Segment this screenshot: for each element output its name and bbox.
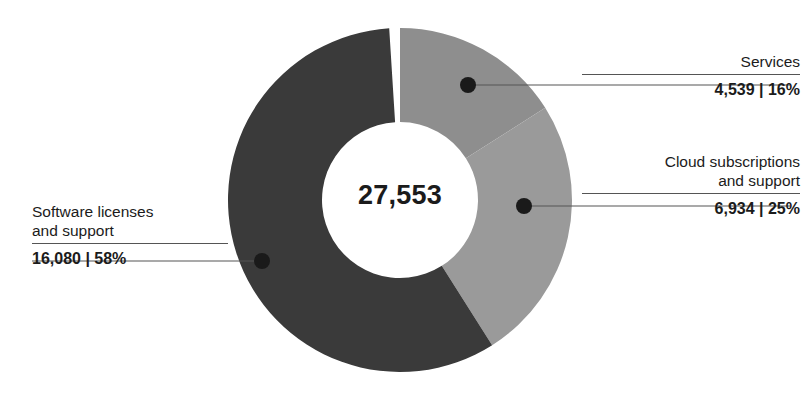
- callout-services-category: Services: [582, 52, 800, 71]
- callout-cloud[interactable]: Cloud subscriptions and support 6,934 | …: [582, 152, 800, 219]
- callout-software[interactable]: Software licenses and support 16,080 | 5…: [32, 202, 228, 269]
- callout-cloud-rule: [582, 193, 800, 194]
- donut-chart: 27,553 Services 4,539 | 16% Cloud subscr…: [0, 0, 810, 399]
- callout-services[interactable]: Services 4,539 | 16%: [582, 52, 800, 100]
- leader-dot-software: [254, 253, 270, 269]
- leader-dot-services: [460, 77, 476, 93]
- callout-software-category-line2: and support: [32, 221, 228, 240]
- callout-cloud-category-line2: and support: [582, 171, 800, 190]
- callout-services-rule: [582, 74, 800, 75]
- leader-dot-cloud: [516, 198, 532, 214]
- callout-cloud-category-line1: Cloud subscriptions: [582, 152, 800, 171]
- callout-software-category-line1: Software licenses: [32, 202, 228, 221]
- center-total-value: 27,553: [320, 180, 480, 211]
- callout-cloud-value: 6,934 | 25%: [582, 197, 800, 219]
- callout-software-value: 16,080 | 58%: [32, 247, 228, 269]
- callout-software-rule: [32, 243, 228, 244]
- callout-services-value: 4,539 | 16%: [582, 78, 800, 100]
